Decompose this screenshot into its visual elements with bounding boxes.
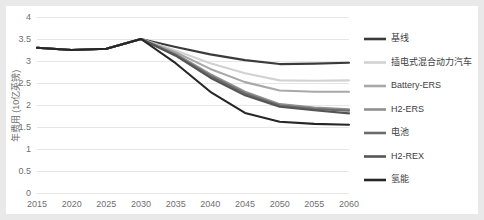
legend-label-H2-ERS: H2-ERS	[391, 104, 424, 114]
x-tick-label: 2015	[27, 199, 47, 209]
y-axis-title: 年费用 (10亿英镑)	[10, 70, 21, 143]
legend-label-基线: 基线	[391, 32, 409, 43]
legend-label-H2-REX: H2-REX	[391, 151, 424, 161]
x-tick-label: 2030	[131, 199, 151, 209]
y-tick-label: 2	[26, 100, 31, 110]
y-tick-label: 3.5	[18, 34, 31, 44]
y-tick-label: 1	[26, 144, 31, 154]
chart-container: 00.511.522.533.54 2015202020252030203520…	[6, 6, 478, 214]
line-chart: 00.511.522.533.54 2015202020252030203520…	[6, 6, 478, 214]
x-tick-label: 2060	[339, 199, 359, 209]
y-tick-label: 0.5	[18, 166, 31, 176]
y-tick-label: 3	[26, 56, 31, 66]
legend-label-插电式混合动力汽车: 插电式混合动力汽车	[391, 56, 472, 67]
legend-label-电池: 电池	[391, 126, 409, 137]
y-tick-label: 0	[26, 188, 31, 198]
x-tick-label: 2025	[96, 199, 116, 209]
x-tick-label: 2020	[62, 199, 82, 209]
x-tick-label: 2050	[270, 199, 290, 209]
y-tick-label: 4	[26, 12, 31, 22]
x-tick-label: 2045	[235, 199, 255, 209]
x-tick-label: 2055	[304, 199, 324, 209]
x-tick-label: 2035	[166, 199, 186, 209]
y-axis-title-label: 年费用 (10亿英镑)	[10, 70, 21, 143]
legend-label-氢能: 氢能	[391, 173, 409, 184]
legend-label-Battery-ERS: Battery-ERS	[391, 80, 441, 90]
x-tick-label: 2040	[200, 199, 220, 209]
